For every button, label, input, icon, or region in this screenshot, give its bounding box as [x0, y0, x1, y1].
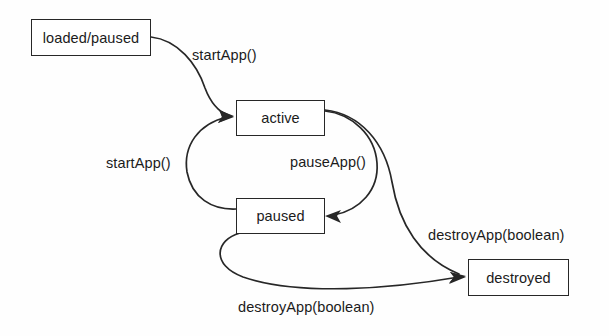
edge-path-destroyapp-bottom	[220, 233, 459, 289]
arrow-head-to-paused	[325, 210, 341, 223]
state-box-loaded-paused[interactable]: loaded/paused	[31, 19, 151, 56]
edge-label-pauseapp: pauseApp()	[290, 154, 366, 170]
edge-active-to-destroyed	[325, 110, 466, 284]
state-box-paused[interactable]: paused	[236, 198, 325, 234]
edge-label-destroyapp-bottom: destroyApp(boolean)	[238, 299, 375, 315]
edge-path-startapp-left	[186, 117, 236, 209]
edge-label-startapp-left: startApp()	[106, 155, 171, 171]
edge-label-destroyapp-right: destroyApp(boolean)	[428, 227, 565, 243]
state-label-destroyed: destroyed	[486, 270, 551, 286]
state-label-loaded-paused: loaded/paused	[43, 30, 139, 46]
state-box-destroyed[interactable]: destroyed	[468, 259, 569, 296]
state-diagram: loaded/paused active paused destroyed st…	[0, 0, 609, 336]
edge-label-startapp-top: startApp()	[192, 47, 257, 63]
edge-paused-to-active	[186, 110, 236, 209]
arrow-head-to-active-left	[218, 110, 234, 123]
state-box-active[interactable]: active	[236, 100, 325, 136]
state-label-active: active	[261, 110, 299, 126]
edge-path-destroyapp-right	[325, 110, 459, 274]
state-label-paused: paused	[256, 208, 304, 224]
